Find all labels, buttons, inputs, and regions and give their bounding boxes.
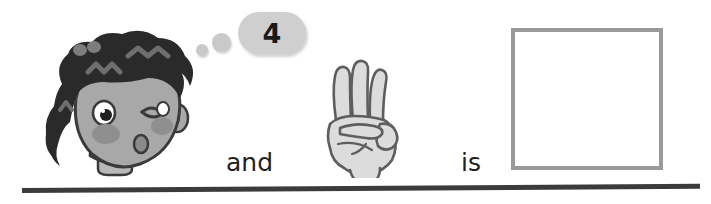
connector-word-is: is <box>461 150 481 175</box>
mouth-icon <box>134 135 148 153</box>
hand-three-fingers-illustration <box>322 58 414 178</box>
bottom-divider <box>22 184 700 193</box>
thought-bubble: 4 <box>238 12 306 54</box>
finger-middle <box>352 61 369 120</box>
cheek-left <box>92 124 120 144</box>
finger-index <box>334 67 351 120</box>
child-head-illustration <box>30 26 205 178</box>
connector-word-and: and <box>226 150 273 175</box>
answer-box[interactable] <box>511 28 663 170</box>
thought-bubble-dot-medium <box>212 33 231 52</box>
thumb <box>340 124 382 138</box>
finger-ring <box>370 70 387 122</box>
eye-open-icon <box>93 101 115 125</box>
thought-bubble-number: 4 <box>263 20 282 47</box>
cheek-right <box>151 117 173 135</box>
worksheet-problem-row: 4 <box>0 0 711 204</box>
answer-box-value[interactable] <box>515 32 659 166</box>
